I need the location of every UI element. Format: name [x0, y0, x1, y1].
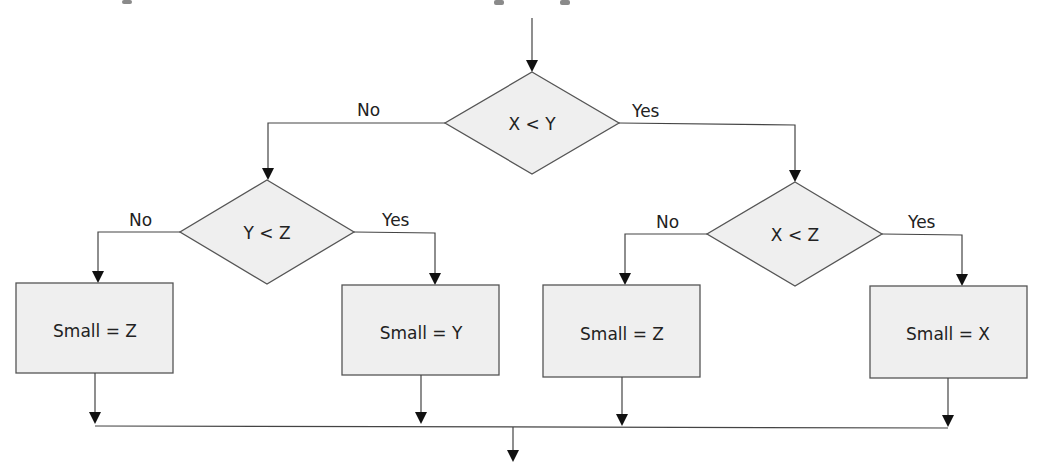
arrow-head-icon	[507, 450, 519, 462]
connector-d3-no	[625, 234, 707, 275]
arrow-head-icon	[415, 412, 427, 424]
decision-label: X < Z	[771, 225, 819, 245]
branch-label-no: No	[357, 100, 380, 120]
decision-label: X < Y	[508, 114, 555, 134]
arrow-head-icon	[942, 415, 954, 427]
connector-d1-no	[268, 123, 445, 170]
decision-label: Y < Z	[243, 223, 290, 243]
process-label: Small = Z	[53, 321, 137, 341]
branch-label-no: No	[129, 210, 152, 230]
arrow-head-icon	[619, 273, 631, 285]
arrow-head-icon	[262, 168, 274, 180]
process-label: Small = Y	[380, 323, 463, 343]
branch-label-yes: Yes	[908, 212, 935, 232]
arrow-head-icon	[789, 170, 801, 182]
arrow-head-icon	[429, 273, 441, 285]
arrow-head-icon	[616, 414, 628, 426]
process-label: Small = X	[906, 324, 990, 344]
connector-d2-no	[98, 232, 180, 273]
merge-line	[95, 426, 948, 428]
connector-d3-yes	[882, 234, 962, 276]
arrow-head-icon	[526, 60, 538, 72]
branch-label-yes: Yes	[632, 101, 659, 121]
branch-label-no: No	[656, 212, 679, 232]
connector-d2-yes	[354, 232, 435, 275]
process-label: Small = Z	[580, 324, 664, 344]
arrow-head-icon	[89, 412, 101, 424]
branch-label-yes: Yes	[382, 210, 409, 230]
connector-d1-yes	[619, 123, 795, 172]
flowchart-canvas	[0, 0, 1059, 475]
arrow-head-icon	[92, 271, 104, 283]
arrow-head-icon	[956, 274, 968, 286]
